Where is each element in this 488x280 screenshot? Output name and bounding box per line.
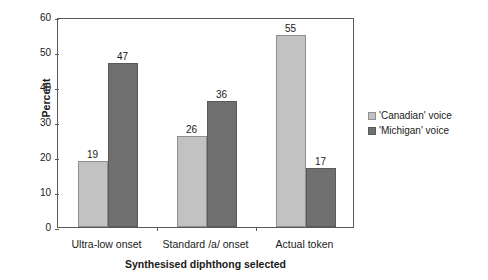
- bar: [78, 161, 108, 228]
- x-category-label: Actual token: [245, 238, 365, 250]
- x-tick-mark: [256, 227, 257, 231]
- legend-swatch-icon: [368, 112, 376, 120]
- bar-value-label: 17: [296, 156, 346, 167]
- bar-value-label: 47: [98, 51, 148, 62]
- legend-item: 'Canadian' voice: [368, 108, 484, 123]
- bar: [276, 35, 306, 228]
- x-tick-mark: [157, 227, 158, 231]
- bar-value-label: 55: [266, 23, 316, 34]
- y-tick-mark: [55, 229, 59, 230]
- bar: [306, 168, 336, 228]
- y-tick-label: 0: [45, 222, 51, 233]
- y-tick-label: 10: [40, 187, 51, 198]
- y-tick-label: 50: [40, 47, 51, 58]
- y-tick-label: 20: [40, 152, 51, 163]
- legend-swatch-icon: [368, 127, 376, 135]
- x-axis-title: Synthesised diphthong selected: [57, 258, 354, 270]
- bar-chart-figure: Percent 0102030405060 194726365517 Ultra…: [0, 0, 488, 280]
- bar-value-label: 36: [197, 89, 247, 100]
- y-tick-mark: [55, 194, 59, 195]
- y-tick-label: 40: [40, 82, 51, 93]
- y-tick-mark: [55, 54, 59, 55]
- y-tick-mark: [55, 19, 59, 20]
- legend-label: 'Michigan' voice: [379, 125, 449, 136]
- chart-legend: 'Canadian' voice'Michigan' voice: [368, 108, 484, 138]
- legend-item: 'Michigan' voice: [368, 123, 484, 138]
- y-tick-mark: [55, 159, 59, 160]
- plot-area: 0102030405060 194726365517: [57, 18, 354, 228]
- y-tick-label: 30: [40, 117, 51, 128]
- y-tick-mark: [55, 89, 59, 90]
- legend-label: 'Canadian' voice: [379, 110, 452, 121]
- bar: [108, 63, 138, 228]
- y-tick-mark: [55, 124, 59, 125]
- y-tick-label: 60: [40, 12, 51, 23]
- bar: [207, 101, 237, 227]
- bar: [177, 136, 207, 227]
